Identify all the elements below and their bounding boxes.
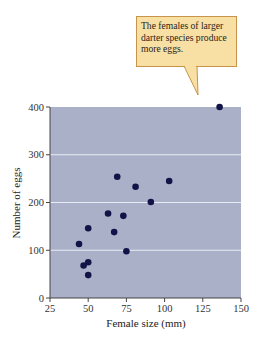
x-axis-ticks: 255075100125150 bbox=[45, 298, 249, 314]
data-point bbox=[148, 199, 155, 206]
y-tick-label: 200 bbox=[28, 197, 44, 208]
x-tick-label: 25 bbox=[45, 303, 56, 314]
data-point bbox=[132, 183, 139, 190]
y-axis-label: Number of eggs bbox=[10, 168, 22, 239]
data-point bbox=[114, 173, 121, 180]
y-tick-label: 100 bbox=[28, 245, 44, 256]
y-tick-label: 400 bbox=[28, 102, 44, 113]
data-point bbox=[123, 248, 130, 255]
callout-annotation: The females of larger darter species pro… bbox=[136, 16, 237, 67]
data-point bbox=[85, 225, 92, 232]
x-tick-label: 50 bbox=[83, 303, 94, 314]
data-point bbox=[85, 272, 92, 279]
data-point bbox=[85, 259, 92, 266]
data-point bbox=[105, 210, 112, 217]
y-tick-label: 300 bbox=[28, 149, 44, 160]
data-point bbox=[166, 178, 173, 185]
x-axis-label: Female size (mm) bbox=[106, 317, 186, 330]
data-point bbox=[76, 241, 83, 248]
data-point bbox=[216, 104, 223, 111]
x-tick-label: 150 bbox=[233, 303, 249, 314]
x-tick-label: 125 bbox=[195, 303, 211, 314]
x-tick-label: 75 bbox=[121, 303, 132, 314]
data-point bbox=[111, 229, 118, 236]
x-tick-label: 100 bbox=[157, 303, 173, 314]
y-axis-ticks: 0100200300400 bbox=[28, 102, 50, 304]
data-point bbox=[120, 213, 127, 220]
callout-tail bbox=[184, 66, 198, 95]
callout-text: The females of larger darter species pro… bbox=[141, 20, 227, 54]
y-tick-label: 0 bbox=[39, 293, 44, 304]
